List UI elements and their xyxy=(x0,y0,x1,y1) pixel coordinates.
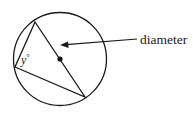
diameter-label: diameter xyxy=(140,32,188,47)
inscribed-triangle-diagram: y° diameter xyxy=(0,0,193,116)
center-point xyxy=(57,56,62,61)
angle-label: y° xyxy=(20,52,30,67)
diameter-arrow xyxy=(60,39,137,48)
arrowhead-icon xyxy=(60,41,69,48)
degree-symbol: ° xyxy=(26,52,30,62)
